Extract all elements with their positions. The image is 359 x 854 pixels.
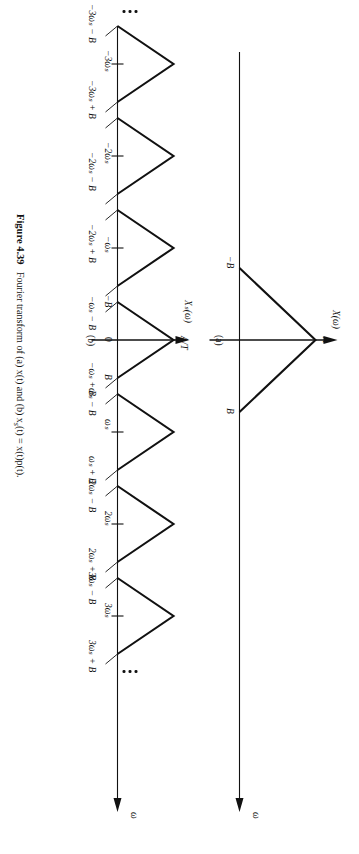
panel-b-edge-label-3ws-plus-b: 3ωₛ + B <box>86 640 96 672</box>
panel-b-edge-leaders <box>105 26 117 664</box>
panel-b-edge-label-2ws-minus-b: 2ωₛ − B <box>86 480 96 512</box>
panel-a: X(ω) ω A −B B (a) <box>189 0 359 854</box>
panel-a-tick-label-b: B <box>224 408 234 414</box>
panel-b-tick-label--1ws: −ωₛ <box>102 236 112 253</box>
panel-b-peak-label: A/T <box>178 336 188 350</box>
panel-b-edge-label-1ws-minus-b: ωₛ − B <box>86 388 96 416</box>
panel-a-plot <box>189 0 359 854</box>
panel-b-x-axis-arrowhead <box>113 798 121 812</box>
panel-b-edge-label-3ws-minus-b: 3ωₛ − B <box>86 572 96 604</box>
figure-caption-part1: Fourier transform of (a) x(t) and (b) x <box>14 272 25 423</box>
panel-a-peak-label: A <box>320 337 330 343</box>
panel-b-replica--1 <box>117 210 173 286</box>
panel-b-replica-3 <box>117 578 173 654</box>
panel-b-tick-label--3ws: −3ωₛ <box>102 50 112 72</box>
panel-b-edge-label--1ws-minus-b: −ωₛ − B <box>86 296 96 330</box>
panel-b-tick-label-3ws: 3ωₛ <box>102 603 112 618</box>
figure-number: Figure 4.39 <box>14 214 25 265</box>
panel-a-x-axis-arrowhead <box>235 798 243 812</box>
panel-b-edge-label--2ws-plus-b: −2ωₛ + B <box>86 224 96 263</box>
panel-b-edge-label--3ws-plus-b: −3ωₛ + B <box>86 80 96 119</box>
figure-caption-part2: (t) = x(t)p(t). <box>14 426 25 477</box>
panel-b-replica-1 <box>117 394 173 470</box>
panel-a-y-axis-label: X(ω) <box>330 310 340 329</box>
panel-b-tick-label-1ws: ωₛ <box>102 419 112 430</box>
panel-b-plot <box>31 0 201 854</box>
panel-b-edge-label--2ws-minus-b: −2ωₛ − B <box>86 152 96 191</box>
panel-b-edge-label--3ws-minus-b: −3ωₛ − B <box>86 4 96 43</box>
panel-b-x-axis-label: ω <box>128 812 138 819</box>
panel-b-y-axis-label-text: Xₛ(ω) <box>182 300 192 323</box>
panel-b-replica--3 <box>117 26 173 102</box>
panel-b-ellipsis-left <box>118 10 137 13</box>
panel-b-tick-label-2ws: 2ωₛ <box>102 511 112 526</box>
panel-b-y-axis-label: Xₛ(ω) <box>182 300 192 323</box>
figure-canvas: X(ω) ω A −B B (a) <box>0 0 359 854</box>
figure-caption: Figure 4.39 Fourier transform of (a) x(t… <box>11 214 25 478</box>
panel-b-edge-label-b: B <box>102 374 112 380</box>
panel-b-edge-label-minus-b: −B <box>102 295 112 307</box>
panel-a-tick-label-minus-b: −B <box>224 256 234 268</box>
panel-b-ellipsis-right <box>118 670 137 673</box>
panel-b-tick-label--2ws: −2ωₛ <box>102 142 112 164</box>
panel-b-replica-2 <box>117 486 173 562</box>
panel-a-tag: (a) <box>213 335 223 346</box>
panel-a-x-axis-label: ω <box>250 812 260 819</box>
panel-b-replica--2 <box>117 118 173 194</box>
panel-b: Xₛ(ω) ω A/T −3ωₛ −2ωₛ −ωₛ 0 ωₛ 2ωₛ 3ωₛ −… <box>31 0 201 854</box>
panel-b-tick-label-0: 0 <box>102 337 112 342</box>
panel-b-tag: (b) <box>85 335 95 346</box>
